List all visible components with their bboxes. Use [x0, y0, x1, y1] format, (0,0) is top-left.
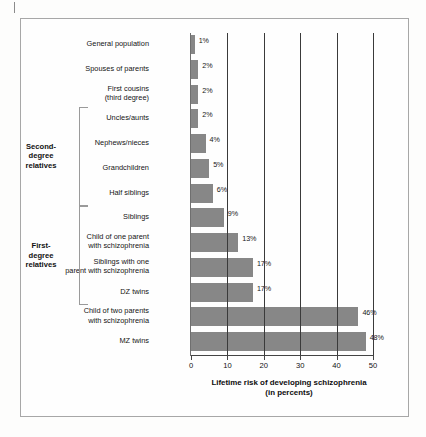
gridline-50: [373, 33, 374, 355]
x-tick-label-20: 20: [260, 361, 268, 370]
category-label: General population: [0, 39, 149, 48]
gridline-20: [264, 33, 265, 355]
category-label: First cousins (third degree): [0, 84, 149, 102]
bar-row: 48%MZ twins: [0, 330, 389, 353]
bar: [191, 134, 206, 153]
bar-row: 2%Spouses of parents: [0, 58, 389, 81]
bar-value-label: 9%: [228, 209, 238, 218]
bar-value-label: 2%: [202, 86, 212, 95]
category-label: Siblings: [0, 212, 149, 221]
bracket-label-first-degree: First- degree relatives: [6, 241, 76, 270]
bar: [191, 35, 195, 54]
bar-value-label: 46%: [362, 308, 376, 317]
x-tick-10: [227, 356, 228, 360]
category-label: DZ twins: [0, 287, 149, 296]
bar-row: 9%Siblings: [0, 206, 389, 229]
bar-value-label: 6%: [217, 185, 227, 194]
bar-value-label: 5%: [213, 160, 223, 169]
x-tick-20: [264, 356, 265, 360]
x-tick-label-10: 10: [223, 361, 231, 370]
gridline-10: [227, 33, 228, 355]
x-tick-30: [300, 356, 301, 360]
bar-value-label: 2%: [202, 110, 212, 119]
bar-row: 17%DZ twins: [0, 281, 389, 304]
x-tick-label-30: 30: [296, 361, 304, 370]
x-axis-line: [191, 355, 374, 356]
gridline-40: [337, 33, 338, 355]
bar: [191, 283, 253, 302]
bar: [191, 307, 358, 326]
bar-value-label: 48%: [370, 333, 384, 342]
x-tick-label-0: 0: [189, 361, 193, 370]
bracket-second-degree: [79, 107, 88, 206]
bar: [191, 208, 224, 227]
gridline-30: [300, 33, 301, 355]
bar-value-label: 1%: [199, 36, 209, 45]
x-tick-40: [337, 356, 338, 360]
bracket-first-degree: [79, 206, 88, 305]
x-tick-label-50: 50: [369, 361, 377, 370]
bar: [191, 184, 213, 203]
bar-value-label: 13%: [242, 234, 256, 243]
bar-chart: 1%General population2%Spouses of parents…: [0, 0, 426, 437]
bar-row: 6%Half siblings: [0, 182, 389, 205]
bar-row: 2%First cousins (third degree): [0, 83, 389, 106]
bar-row: 2%Uncles/aunts: [0, 107, 389, 130]
category-label: Child of two parents with schizophrenia: [0, 306, 149, 324]
bar: [191, 60, 198, 79]
category-label: Spouses of parents: [0, 64, 149, 73]
bar: [191, 159, 209, 178]
bar: [191, 258, 253, 277]
bracket-label-second-degree: Second- degree relatives: [6, 142, 76, 171]
bar: [191, 85, 198, 104]
x-tick-50: [373, 356, 374, 360]
bar-value-label: 4%: [210, 135, 220, 144]
bar-value-label: 2%: [202, 61, 212, 70]
category-label: Half siblings: [0, 188, 149, 197]
bar: [191, 332, 366, 351]
x-tick-label-40: 40: [332, 361, 340, 370]
bar: [191, 109, 198, 128]
category-label: Uncles/aunts: [0, 113, 149, 122]
bar-row: 1%General population: [0, 33, 389, 56]
bar-row: 46%Child of two parents with schizophren…: [0, 305, 389, 328]
x-tick-0: [191, 356, 192, 360]
category-label: MZ twins: [0, 336, 149, 345]
x-axis-title: Lifetime risk of developing schizophreni…: [191, 378, 387, 399]
bar: [191, 233, 238, 252]
